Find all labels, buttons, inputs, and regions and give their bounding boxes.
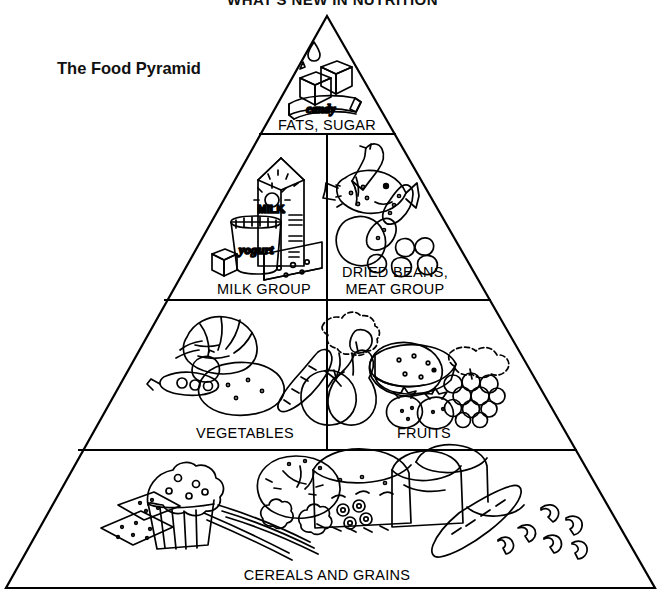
baguette-icon	[432, 485, 524, 557]
egg-icon	[336, 216, 385, 265]
tier-fats-sugar-illustration: candy	[289, 42, 361, 119]
pepper-icon	[192, 350, 219, 382]
tier-meat-group-illustration	[323, 144, 437, 277]
tier-milk-group-illustration: MILK yogurt	[212, 158, 322, 280]
sliced-bread-icon	[392, 445, 488, 527]
pea-pod-icon	[147, 372, 218, 395]
food-pyramid-diagram: candy FATS, SUGAR MILK	[0, 0, 665, 608]
fish-icon	[323, 170, 419, 213]
sugar-cube-back-icon	[321, 61, 352, 94]
tier-label-vegetables: VEGETABLES	[196, 425, 294, 441]
tier-label-cereals-grains: CEREALS AND GRAINS	[244, 567, 411, 583]
tier-label-meat-group-line2: MEAT GROUP	[345, 281, 444, 297]
candy-wrapper-text: candy	[306, 102, 336, 116]
tier-fruits-illustration	[328, 330, 509, 429]
milk-carton-label: MILK	[258, 203, 285, 215]
tier-label-fruits: FRUITS	[397, 425, 451, 441]
butter-cube-icon	[212, 249, 237, 276]
carrot-icon	[278, 350, 332, 412]
tier-label-meat-group-line1: DRIED BEANS,	[342, 264, 448, 280]
tier-cereals-grains-illustration	[101, 445, 587, 560]
tier-label-milk-group: MILK GROUP	[217, 281, 311, 297]
yogurt-container-label: yogurt	[237, 242, 274, 257]
chicken-drumstick-icon	[352, 144, 383, 190]
orange-icon	[369, 342, 442, 396]
tier-label-fats-sugar: FATS, SUGAR	[278, 117, 376, 133]
food-pyramid-page: WHAT'S NEW IN NUTRITION The Food Pyramid	[0, 0, 665, 608]
muffin-icon	[148, 463, 224, 549]
